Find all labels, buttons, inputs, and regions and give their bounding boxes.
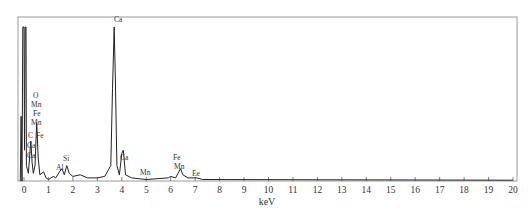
x-tick-label: 4	[119, 185, 124, 195]
peak-label-mn: Mn	[174, 162, 185, 171]
x-tick-label: 13	[337, 185, 347, 195]
peak-label-mn: Mn	[31, 118, 42, 127]
peak-label-mn: Mn	[140, 168, 151, 177]
peak-label-fe: Fe	[36, 131, 44, 140]
x-tick-label: 18	[459, 185, 469, 195]
x-tick-label: 6	[168, 185, 173, 195]
x-tick-label: 17	[435, 185, 445, 195]
x-tick-label: 12	[313, 185, 323, 195]
peak-label-fe: Fe	[173, 153, 181, 162]
x-tick-label: 8	[217, 185, 222, 195]
peak-label-ca: Ca	[114, 15, 123, 24]
spectrum-line	[20, 27, 513, 181]
peak-label-mn: Mn	[31, 100, 42, 109]
x-tick-label: 9	[242, 185, 247, 195]
plot-frame	[18, 17, 517, 181]
x-tick-label: 1	[46, 185, 51, 195]
eds-spectrum-chart: 01234567891011121314151617181920 CaOMnFe…	[0, 0, 530, 220]
x-tick-label: 16	[410, 185, 420, 195]
x-tick-label: 2	[71, 185, 76, 195]
peak-label-c: C	[28, 131, 33, 140]
x-tick-label: 7	[193, 185, 198, 195]
x-tick-label: 0	[22, 185, 27, 195]
peak-label-fe: Fe	[33, 109, 41, 118]
x-tick-label: 15	[386, 185, 396, 195]
peak-label-ca: Ca	[120, 153, 129, 162]
x-axis-ticks	[0, 0, 513, 181]
x-tick-label: 10	[264, 185, 274, 195]
x-tick-label: 19	[484, 185, 494, 195]
x-axis-title: keV	[259, 196, 276, 207]
x-tick-label: 14	[362, 185, 372, 195]
x-tick-label: 20	[508, 185, 518, 195]
x-axis-tick-labels: 01234567891011121314151617181920	[22, 185, 518, 195]
peak-label-o: O	[33, 91, 39, 100]
peak-label-ee: Ee	[192, 169, 201, 178]
peak-label-ca: Ca	[27, 151, 36, 160]
x-tick-label: 11	[288, 185, 297, 195]
x-tick-label: 5	[144, 185, 149, 195]
peak-label-si: Si	[63, 154, 69, 163]
peak-label-ca: Ca	[27, 141, 36, 150]
peak-label-al: Al	[56, 163, 64, 172]
x-tick-label: 3	[95, 185, 100, 195]
